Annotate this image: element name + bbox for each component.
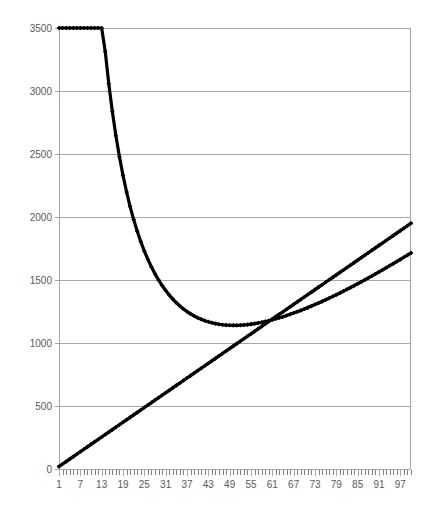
x-axis-labels-group: 17131925313743495561677379859197 (56, 479, 406, 490)
gridlines-group (59, 29, 411, 470)
y-axis-tick-label: 1500 (30, 275, 53, 286)
x-axis-tick-label: 73 (309, 479, 321, 490)
x-axis-tick-label: 61 (267, 479, 279, 490)
axis-lines-group (59, 28, 411, 470)
y-axis-tick-label: 3500 (30, 23, 53, 34)
y-axis-tick-label: 3000 (30, 86, 53, 97)
x-axis-ticks-group (60, 470, 412, 476)
x-axis-tick-label: 79 (331, 479, 343, 490)
chart-plot-svg: 0500100015002000250030003500 17131925313… (0, 0, 424, 517)
x-axis-tick-label: 31 (160, 479, 172, 490)
x-axis-tick-label: 97 (395, 479, 407, 490)
y-axis-tick-label: 2000 (30, 212, 53, 223)
x-axis-tick-label: 25 (139, 479, 151, 490)
x-axis-tick-label: 43 (203, 479, 215, 490)
y-axis-ticks-group (55, 29, 59, 470)
x-axis-tick-label: 49 (224, 479, 236, 490)
x-axis-tick-label: 7 (78, 479, 84, 490)
x-axis-tick-label: 19 (117, 479, 129, 490)
chart-container: 0500100015002000250030003500 17131925313… (0, 0, 424, 517)
x-axis-tick-label: 1 (56, 479, 62, 490)
x-axis-tick-label: 67 (288, 479, 300, 490)
x-axis-tick-label: 91 (373, 479, 385, 490)
x-axis-tick-label: 37 (181, 479, 193, 490)
y-axis-tick-label: 2500 (30, 149, 53, 160)
data-series-group (57, 26, 414, 469)
y-axis-tick-label: 0 (46, 464, 52, 475)
x-axis-tick-label: 55 (245, 479, 257, 490)
x-axis-tick-label: 85 (352, 479, 364, 490)
y-axis-labels-group: 0500100015002000250030003500 (30, 23, 53, 475)
y-axis-tick-label: 1000 (30, 338, 53, 349)
y-axis-tick-label: 500 (35, 401, 52, 412)
x-axis-tick-label: 13 (96, 479, 108, 490)
